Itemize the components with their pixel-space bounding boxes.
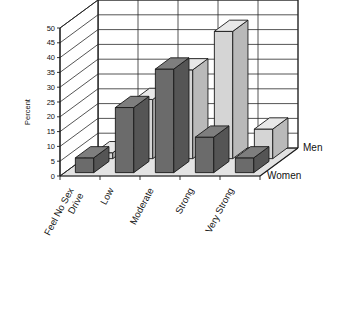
- category-label-0: Feel No SexDrive: [42, 186, 86, 243]
- y-axis-tick-label: 20: [47, 112, 55, 121]
- y-axis-tick-label: 50: [47, 24, 55, 33]
- category-label-3: Strong: [173, 186, 196, 216]
- y-axis-tick-label: 0: [51, 172, 55, 181]
- y-axis-tick-label: 5: [51, 157, 55, 166]
- y-axis-tick-label: 30: [47, 83, 55, 92]
- y-axis-tick-label: 40: [47, 53, 55, 62]
- y-axis-title: Percent: [23, 98, 32, 125]
- y-axis-tick-label: 35: [47, 68, 55, 77]
- bar-women-3-front: [195, 137, 213, 173]
- series-label-women: Women: [267, 170, 301, 181]
- bar-women-2-side: [174, 58, 189, 173]
- y-axis-tick-label: 10: [47, 142, 55, 151]
- category-label-1: Low: [98, 186, 116, 207]
- bar-women-1-front: [115, 108, 133, 173]
- category-label-2: Moderate: [127, 186, 156, 227]
- bar-women-0-front: [75, 158, 93, 173]
- bar-women-2-front: [155, 69, 173, 173]
- y-axis-tick-label: 45: [47, 38, 55, 47]
- three-d-bar-chart: 05101520253035404550PercentFeel No SexDr…: [0, 0, 340, 314]
- category-label-4: Very Strong: [203, 186, 236, 235]
- bar-men-3-side: [233, 20, 248, 158]
- chart-container: 05101520253035404550PercentFeel No SexDr…: [0, 0, 340, 314]
- series-label-men: Men: [303, 142, 322, 153]
- bar-women-1-side: [134, 96, 149, 172]
- y-axis-tick-label: 15: [47, 127, 55, 136]
- bar-women-4-front: [235, 158, 253, 173]
- y-axis-tick-label: 25: [47, 98, 55, 107]
